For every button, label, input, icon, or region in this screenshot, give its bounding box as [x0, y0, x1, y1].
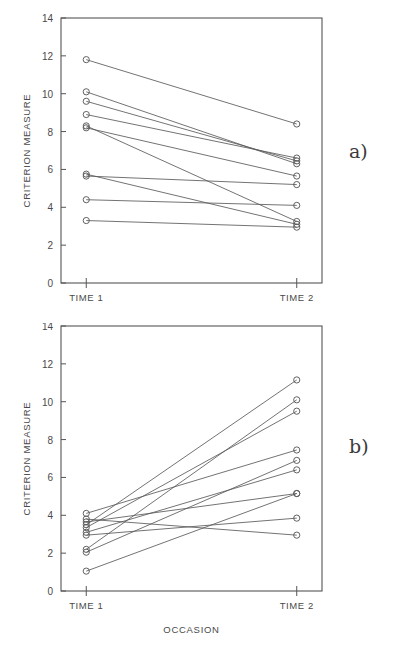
series-subject-6 [83, 467, 300, 536]
panel-b-label: b) [349, 435, 369, 457]
x-tick-label: TIME 2 [280, 292, 314, 303]
series-subject-2 [83, 89, 300, 167]
panel-a-plot: 02468101214TIME 1TIME 2CRITERION MEASURE [0, 0, 397, 325]
plot-frame [61, 18, 322, 283]
y-tick-label: 10 [42, 89, 54, 100]
series-group [83, 57, 300, 231]
y-tick-label: 10 [42, 397, 54, 408]
x-tick-label: TIME 2 [280, 600, 314, 611]
series-subject-8 [83, 490, 300, 574]
series-subject-5 [83, 123, 300, 225]
series-subject-9 [83, 197, 300, 209]
plot-frame [61, 326, 322, 591]
y-tick-label: 6 [47, 164, 53, 175]
y-tick-label: 14 [42, 323, 54, 332]
series-line-segment [86, 411, 296, 527]
x-tick-label: TIME 1 [69, 600, 103, 611]
series-line-segment [86, 450, 296, 513]
panel-b-plot: 02468101214TIME 1TIME 2CRITERION MEASURE… [0, 323, 397, 650]
series-subject-7 [83, 171, 300, 227]
series-group [83, 377, 300, 574]
series-line-segment [86, 380, 296, 525]
y-tick-label: 8 [47, 435, 53, 446]
series-line-segment [86, 60, 296, 124]
y-tick-label: 0 [47, 586, 53, 597]
panel-a: 02468101214TIME 1TIME 2CRITERION MEASURE [0, 0, 397, 325]
series-subject-5 [83, 457, 300, 555]
series-line-segment [86, 174, 296, 224]
series-line-segment [86, 494, 296, 522]
y-tick-label: 4 [47, 510, 53, 521]
y-tick-label: 8 [47, 127, 53, 138]
y-tick-label: 0 [47, 278, 53, 289]
series-subject-8 [83, 173, 300, 188]
panel-b: 02468101214TIME 1TIME 2CRITERION MEASURE… [0, 323, 397, 650]
series-subject-1 [83, 57, 300, 128]
y-tick-label: 12 [42, 51, 54, 62]
series-line-segment [86, 176, 296, 185]
series-subject-10 [83, 217, 300, 230]
series-subject-7 [83, 490, 300, 525]
y-tick-label: 14 [42, 13, 54, 24]
figure-caption-strip [0, 640, 397, 650]
y-tick-label: 4 [47, 202, 53, 213]
y-axis-title: CRITERION MEASURE [21, 94, 32, 208]
y-tick-label: 2 [47, 240, 53, 251]
series-subject-1 [83, 377, 300, 528]
panel-a-label: a) [349, 140, 368, 162]
y-tick-label: 2 [47, 548, 53, 559]
series-line-segment [86, 126, 296, 222]
x-tick-label: TIME 1 [69, 292, 103, 303]
series-line-segment [86, 92, 296, 164]
data-point-marker [294, 397, 300, 403]
series-subject-10 [83, 516, 300, 538]
series-subject-3 [83, 408, 300, 531]
two-panel-line-figure: 02468101214TIME 1TIME 2CRITERION MEASURE… [0, 0, 397, 650]
series-line-segment [86, 200, 296, 206]
series-line-segment [86, 221, 296, 228]
y-tick-label: 12 [42, 359, 54, 370]
series-subject-2 [83, 397, 300, 553]
y-tick-label: 6 [47, 472, 53, 483]
series-line-segment [86, 470, 296, 532]
x-axis-title: OCCASION [163, 624, 219, 635]
series-subject-9 [83, 515, 300, 538]
y-axis-title: CRITERION MEASURE [21, 402, 32, 516]
